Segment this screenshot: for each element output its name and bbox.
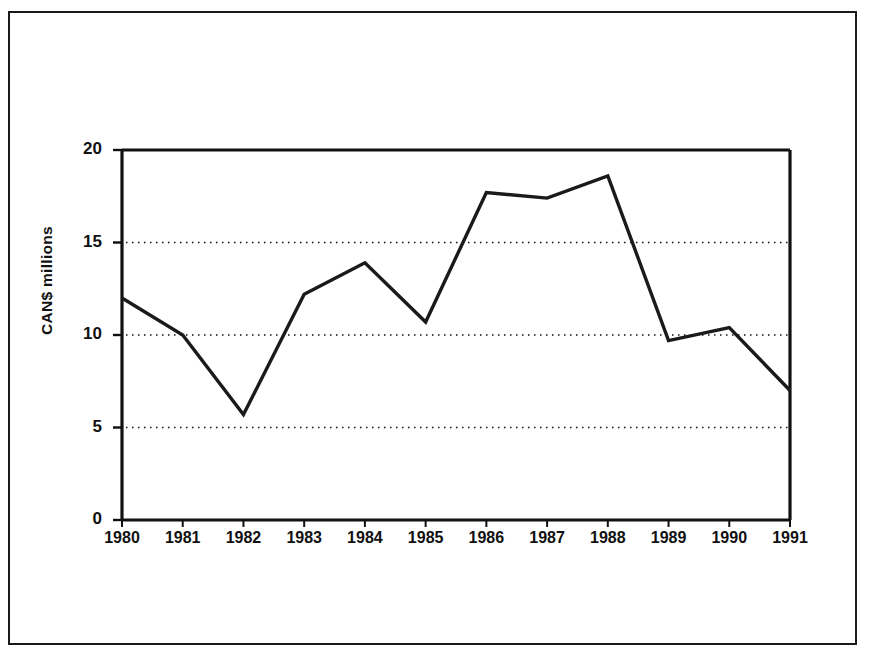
line-chart: 05101520 1980198119821983198419851986198… xyxy=(0,0,871,662)
y-tick-label: 15 xyxy=(56,232,102,252)
chart-page: 05101520 1980198119821983198419851986198… xyxy=(0,0,871,662)
x-tick-label: 1983 xyxy=(269,529,339,547)
x-tick-label: 1982 xyxy=(208,529,278,547)
x-tick-label: 1984 xyxy=(330,529,400,547)
y-tick-label: 20 xyxy=(56,139,102,159)
data-line xyxy=(122,176,790,415)
x-tick-label: 1991 xyxy=(755,529,825,547)
y-tick-label: 10 xyxy=(56,324,102,344)
x-tick-label: 1989 xyxy=(634,529,704,547)
x-tick-label: 1987 xyxy=(512,529,582,547)
y-axis-title: CAN$ millions xyxy=(38,195,56,335)
y-tick-label: 0 xyxy=(56,509,102,529)
x-tick-label: 1985 xyxy=(391,529,461,547)
x-tick-label: 1981 xyxy=(148,529,218,547)
x-tick-label: 1986 xyxy=(451,529,521,547)
y-tick-label: 5 xyxy=(56,417,102,437)
x-tick-label: 1980 xyxy=(87,529,157,547)
x-tick-label: 1990 xyxy=(694,529,764,547)
plot-canvas xyxy=(0,0,871,662)
x-tick-label: 1988 xyxy=(573,529,643,547)
